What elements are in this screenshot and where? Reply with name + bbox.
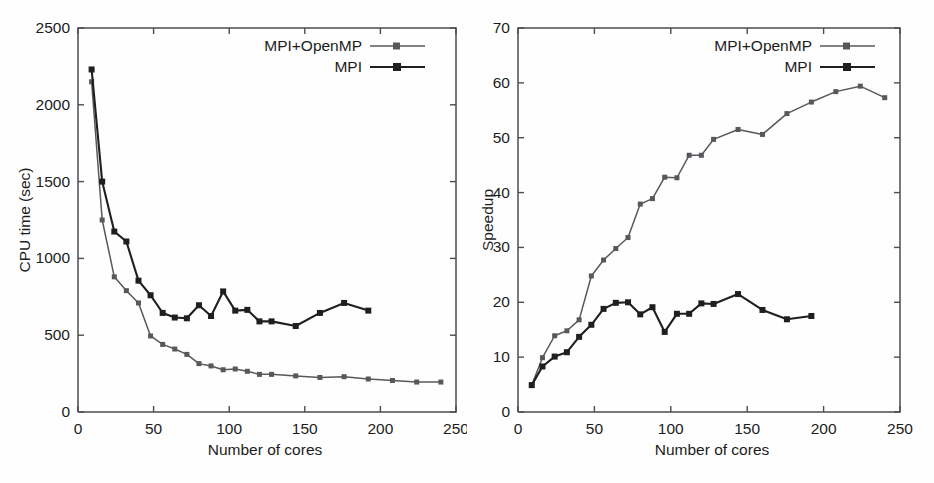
cpu-time-marker xyxy=(100,218,105,223)
cpu-time-marker xyxy=(342,374,347,379)
speedup-marker xyxy=(662,329,668,335)
cpu-time-marker xyxy=(136,300,141,305)
speedup-yticklabel-1: 10 xyxy=(493,348,511,365)
cpu-time-plot: 050100150200250 05001000150020002500 Num… xyxy=(0,0,467,483)
cpu-time-marker xyxy=(89,66,95,72)
cpu-time-marker xyxy=(414,380,419,385)
legend-label-mpi: MPI xyxy=(784,58,812,75)
cpu-time-yticklabel-5: 2500 xyxy=(36,19,71,36)
speedup-marker xyxy=(858,84,863,89)
speedup-marker xyxy=(613,246,618,251)
cpu-time-series-mpi xyxy=(89,66,372,329)
cpu-time-xticklabel-0: 0 xyxy=(74,420,83,437)
cpu-time-marker xyxy=(148,292,154,298)
speedup-marker xyxy=(686,311,692,317)
speedup-series-mpi-openmp xyxy=(529,84,887,388)
legend-label-mpi-openmp: MPI+OpenMP xyxy=(714,37,812,54)
speedup-marker xyxy=(552,354,558,360)
cpu-time-yticklabel-2: 1000 xyxy=(36,249,71,266)
speedup-yticklabel-6: 60 xyxy=(493,74,511,91)
speedup-marker xyxy=(589,273,594,278)
cpu-time-marker xyxy=(208,313,214,319)
speedup-marker xyxy=(540,355,545,360)
speedup-x-ticklabels: 050100150200250 xyxy=(514,420,914,437)
speedup-marker xyxy=(601,258,606,263)
cpu-time-marker xyxy=(221,367,226,372)
cpu-time-series-group xyxy=(89,66,444,384)
legend-marker-mpi xyxy=(393,63,401,71)
speedup-marker xyxy=(809,100,814,105)
cpu-time-xticklabel-4: 200 xyxy=(367,420,393,437)
speedup-xticklabel-2: 100 xyxy=(658,420,684,437)
cpu-time-marker xyxy=(269,318,275,324)
speedup-marker xyxy=(552,333,557,338)
cpu-time-marker xyxy=(257,372,262,377)
speedup-marker xyxy=(711,301,717,307)
speedup-marker xyxy=(698,300,704,306)
cpu-time-marker xyxy=(112,274,117,279)
cpu-time-marker xyxy=(123,239,129,245)
speedup-xticklabel-1: 50 xyxy=(586,420,604,437)
speedup-line-0 xyxy=(532,86,885,385)
cpu-time-marker xyxy=(220,288,226,294)
cpu-time-yticklabel-0: 0 xyxy=(61,403,70,420)
cpu-time-marker xyxy=(341,300,347,306)
cpu-time-marker xyxy=(160,310,166,316)
cpu-time-xticklabel-3: 150 xyxy=(292,420,318,437)
legend-marker-mpi-openmp xyxy=(843,43,850,50)
speedup-marker xyxy=(759,307,765,313)
cpu-time-xticklabel-1: 50 xyxy=(145,420,163,437)
speedup-axis-box xyxy=(518,28,900,412)
cpu-time-marker xyxy=(365,308,371,314)
cpu-time-yticklabel-4: 2000 xyxy=(36,96,71,113)
cpu-time-xlabel: Number of cores xyxy=(208,441,323,458)
cpu-time-marker xyxy=(209,363,214,368)
cpu-time-marker xyxy=(160,342,165,347)
cpu-time-marker xyxy=(244,307,250,313)
speedup-line-1 xyxy=(532,294,812,385)
speedup-marker xyxy=(649,304,655,310)
cpu-time-xticklabel-2: 100 xyxy=(216,420,242,437)
cpu-time-legend: MPI+OpenMP MPI xyxy=(264,37,425,75)
cpu-time-x-tickmarks xyxy=(78,28,456,412)
speedup-yticklabel-2: 20 xyxy=(493,293,511,310)
cpu-time-marker xyxy=(111,229,117,235)
speedup-marker xyxy=(601,306,607,312)
cpu-time-marker xyxy=(184,315,190,321)
speedup-marker xyxy=(650,196,655,201)
cpu-time-x-ticklabels: 050100150200250 xyxy=(74,420,467,437)
cpu-time-line-0 xyxy=(92,82,441,382)
speedup-plot: 050100150200250 010203040506070 Number o… xyxy=(467,0,934,483)
speedup-series-group xyxy=(529,84,887,388)
cpu-time-marker xyxy=(366,376,371,381)
cpu-time-marker xyxy=(245,369,250,374)
cpu-time-series-mpi-openmp xyxy=(89,79,443,384)
speedup-xticklabel-3: 150 xyxy=(734,420,760,437)
speedup-marker xyxy=(662,175,667,180)
speedup-marker xyxy=(784,111,789,116)
speedup-marker xyxy=(736,127,741,132)
cpu-time-yticklabel-1: 500 xyxy=(44,326,70,343)
speedup-marker xyxy=(711,137,716,142)
speedup-xlabel: Number of cores xyxy=(655,441,770,458)
cpu-time-y-ticklabels: 05001000150020002500 xyxy=(36,19,71,420)
cpu-time-marker xyxy=(390,378,395,383)
legend-marker-mpi-openmp xyxy=(393,43,400,50)
speedup-xticklabel-5: 250 xyxy=(887,420,913,437)
speedup-marker xyxy=(674,175,679,180)
chart-panel-cpu-time: 050100150200250 05001000150020002500 Num… xyxy=(0,0,467,483)
cpu-time-marker xyxy=(196,361,201,366)
cpu-time-marker xyxy=(438,380,443,385)
legend-label-mpi: MPI xyxy=(334,58,362,75)
speedup-y-tickmarks xyxy=(518,28,900,412)
cpu-time-marker xyxy=(293,373,298,378)
cpu-time-marker xyxy=(124,288,129,293)
speedup-marker xyxy=(588,322,594,328)
cpu-time-axes xyxy=(78,28,456,412)
speedup-marker xyxy=(784,316,790,322)
speedup-marker xyxy=(564,328,569,333)
cpu-time-xticklabel-5: 250 xyxy=(443,420,467,437)
cpu-time-yticklabel-3: 1500 xyxy=(36,173,71,190)
speedup-marker xyxy=(808,313,814,319)
speedup-legend: MPI+OpenMP MPI xyxy=(714,37,875,75)
